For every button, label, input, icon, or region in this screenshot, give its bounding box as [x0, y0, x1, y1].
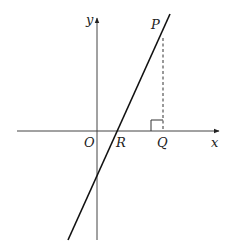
origin-label: O: [84, 135, 95, 150]
point-r-label: R: [115, 135, 126, 150]
line-through-r-p: [68, 14, 170, 240]
y-axis-label: y: [85, 12, 94, 27]
diagram-canvas: y P O R Q x: [0, 0, 226, 246]
right-angle-marker: [151, 120, 163, 131]
point-q-label: Q: [157, 135, 168, 150]
x-axis-label: x: [211, 135, 219, 150]
point-p-label: P: [150, 17, 160, 32]
